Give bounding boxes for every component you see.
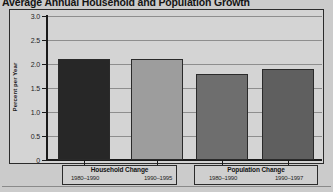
bottom-divider (2, 186, 331, 187)
x-label-household-1980-1990: 1980–1990 (56, 175, 114, 181)
y-tick-label-3-0: 3.0 (16, 13, 40, 20)
y-tick-mark-2-0 (42, 64, 47, 65)
x-label-population-1990-1997: 1990–1997 (260, 175, 318, 181)
x-label-household-1990-1995: 1990–1995 (129, 175, 187, 181)
y-tick-label-1-0: 1.0 (16, 109, 40, 116)
bar-population-1980-1990 (196, 74, 248, 160)
chart-figure: Average Annual Household and Population … (0, 0, 333, 192)
bar-household-1990-1995 (131, 59, 183, 160)
group-title-household: Household Change (62, 166, 177, 173)
y-tick-label-0-5: 0.5 (16, 133, 40, 140)
y-tick-mark-0-5 (42, 136, 47, 137)
group-title-population: Population Change (194, 166, 318, 173)
bar-population-1990-1997 (262, 69, 314, 160)
y-tick-mark-3-0 (42, 16, 47, 17)
y-tick-mark-1-0 (42, 112, 47, 113)
y-tick-label-2-0: 2.0 (16, 61, 40, 68)
y-tick-mark-2-5 (42, 40, 47, 41)
x-label-population-1980-1990: 1980–1990 (194, 175, 252, 181)
bar-household-1980-1990 (58, 59, 110, 160)
y-tick-mark-1-5 (42, 88, 47, 89)
y-tick-label-1-5: 1.5 (16, 85, 40, 92)
y-tick-label-0: 0 (16, 157, 40, 164)
y-tick-mark-0 (42, 160, 47, 161)
y-tick-label-2-5: 2.5 (16, 37, 40, 44)
